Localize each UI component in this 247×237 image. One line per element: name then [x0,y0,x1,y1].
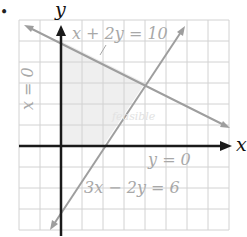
x-axis-arrow-icon [220,141,232,151]
equation-label-x-eq-0: x = 0 [18,67,37,110]
arrowhead-icon [24,25,34,32]
equation-label-y-eq-0: y = 0 [148,150,191,169]
equation-label-x-plus-2y: x + 2y = 10 [72,24,168,43]
grid [19,20,229,230]
y-axis-arrow-icon [56,25,66,36]
region-label: feasible [112,110,155,123]
bullet: • [0,4,8,20]
x-axis [19,141,232,151]
equation-label-3x-minus-2y: 3x − 2y = 6 [84,178,180,197]
y-axis-label: y [55,0,66,20]
x-axis-label: x [236,133,247,155]
